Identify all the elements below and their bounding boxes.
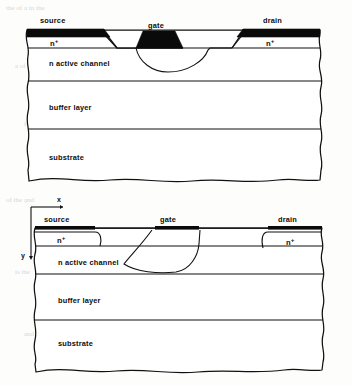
x-axis-label: x (57, 196, 61, 203)
y-axis-arrow (29, 256, 33, 260)
lower-source-electrode (35, 226, 95, 230)
device-cross-section-figure: source gate drain n+ n+ n active channel… (0, 0, 352, 385)
upper-source-electrode (27, 29, 110, 37)
x-axis-arrow (60, 205, 63, 209)
upper-active-channel-label: n active channel (49, 59, 110, 68)
upper-diagram: source gate drain n+ n+ n active channel… (26, 16, 322, 182)
lower-buffer-layer-label: buffer layer (58, 296, 101, 305)
upper-gate-label: gate (148, 21, 164, 30)
upper-source-label: source (40, 16, 65, 25)
upper-substrate-label: substrate (49, 153, 84, 162)
lower-gate-label: gate (160, 215, 176, 224)
lower-drain-electrode (268, 226, 322, 230)
lower-gate-electrode (155, 226, 199, 230)
upper-gate-electrode (136, 31, 183, 48)
y-axis-label: y (21, 252, 25, 260)
lower-diagram: source gate drain n+ n+ n active channel… (34, 215, 324, 373)
upper-buffer-layer-label: buffer layer (49, 103, 92, 112)
upper-drain-electrode (237, 29, 320, 37)
upper-drain-label: drain (263, 16, 282, 25)
lower-drain-label: drain (278, 215, 297, 224)
lower-substrate-label: substrate (58, 339, 93, 348)
lower-active-channel-label: n active channel (58, 258, 119, 267)
lower-source-label: source (44, 215, 69, 224)
